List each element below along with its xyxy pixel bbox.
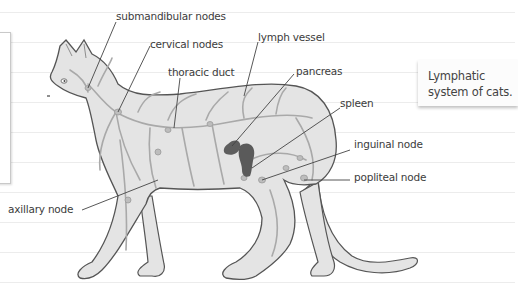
label-lymph-vessel: lymph vessel [258, 31, 325, 43]
label-axillary-node: axillary node [8, 203, 73, 215]
label-popliteal-node: popliteal node [354, 171, 426, 183]
title-line-1: Lymphatic [428, 68, 513, 84]
label-submandibular-nodes: submandibular nodes [116, 10, 226, 22]
label-thoracic-duct: thoracic duct [168, 66, 234, 78]
label-pancreas: pancreas [296, 65, 342, 77]
label-inguinal-node: inguinal node [354, 138, 423, 150]
label-cervical-nodes: cervical nodes [150, 38, 223, 50]
label-spleen: spleen [340, 97, 373, 109]
title-line-2: system of cats. [428, 84, 513, 100]
title-sticky-note: Lymphatic system of cats. [418, 60, 518, 106]
title-note-text: Lymphatic system of cats. [428, 68, 513, 100]
